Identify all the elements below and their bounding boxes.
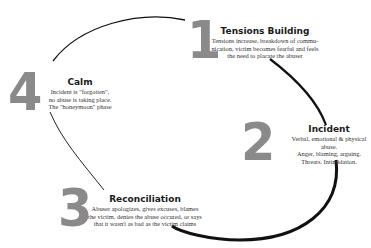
stage-desc-line: Threats. Intimidation. (283, 158, 371, 166)
stage-desc-line: Tensions increase, breakdown of commu- (200, 37, 330, 45)
stage-desc-line: Verbal, emotional & physical abuse. (283, 135, 371, 150)
arrow-calm-to-tensions (53, 17, 185, 61)
stage-title: Reconciliation (82, 194, 208, 205)
stage-desc-line: Abuser apologizes, gives excuses, blames (82, 205, 208, 213)
stage-desc-line: the victim, denies the abuse occured, or… (82, 213, 208, 221)
stage-desc-line: Incident is "forgotten", (42, 88, 118, 96)
stage-desc-line: that it wasn't as bad as the victim clai… (82, 220, 208, 228)
stage-title: Incident (283, 124, 371, 135)
stage-reconciliation: Reconciliation Abuser apologizes, gives … (82, 194, 208, 228)
stage-desc-line: Anger, blaming, arguing. (283, 150, 371, 158)
arrow-tensions-to-incident (270, 59, 326, 125)
stage-title: Tensions Building (200, 26, 330, 37)
stage-desc-line: nication, victim becomes fearful and fee… (200, 45, 330, 53)
stage-tensions-building: Tensions Building Tensions increase, bre… (200, 26, 330, 60)
stage-incident: Incident Verbal, emotional & physical ab… (283, 124, 371, 165)
stage-title: Calm (42, 77, 118, 88)
stage-number-2: 2 (241, 116, 275, 168)
cycle-diagram: 1 Tensions Building Tensions increase, b… (0, 0, 371, 248)
stage-calm: Calm Incident is "forgotten", no abuse i… (42, 77, 118, 111)
stage-desc-line: no abuse is taking place. (42, 96, 118, 104)
stage-desc-line: The "honeymoon" phase (42, 103, 118, 111)
stage-number-4: 4 (8, 66, 42, 118)
stage-desc-line: the need to placate the abuser (200, 52, 330, 60)
